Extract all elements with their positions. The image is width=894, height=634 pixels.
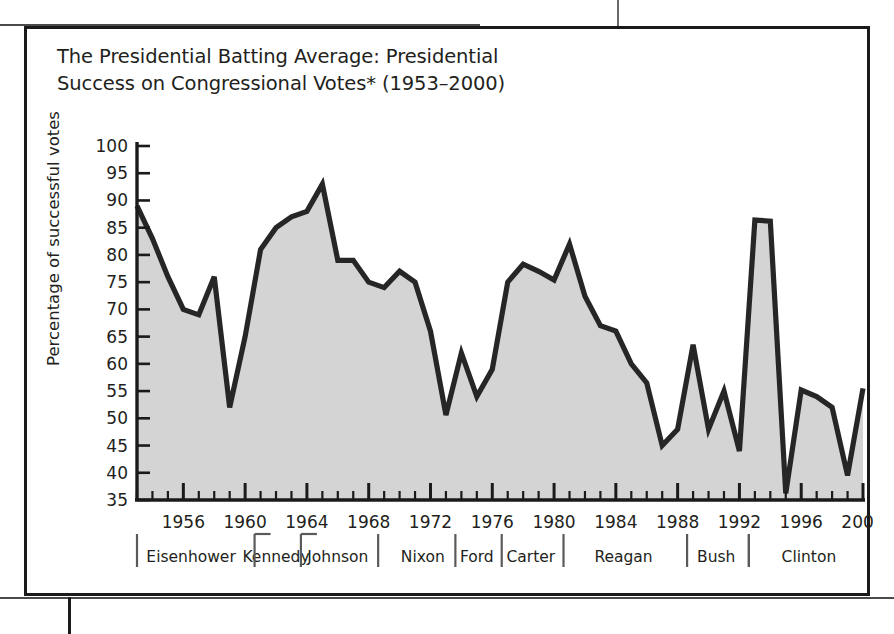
y-tick-label: 35 [106, 490, 128, 510]
y-tick-label: 55 [106, 381, 128, 401]
x-tick-label: 1996 [780, 512, 823, 532]
president-label: Clinton [782, 548, 837, 566]
x-tick-label: 1956 [162, 512, 205, 532]
figure-root: The Presidential Batting Average: Presid… [0, 0, 894, 634]
x-tick-label: 1980 [532, 512, 575, 532]
y-tick-label: 50 [106, 408, 128, 428]
x-tick-label: 2000 [841, 512, 873, 532]
plot-area: Percentage of successful votes 100959085… [27, 29, 873, 599]
x-tick-label: 1968 [347, 512, 390, 532]
y-tick-label: 75 [106, 272, 128, 292]
president-label: Bush [697, 548, 735, 566]
y-tick-label: 100 [96, 136, 128, 156]
president-label: Johnson [306, 548, 368, 566]
page-crop-line-bottom-left [68, 597, 71, 634]
y-tick-label: 95 [106, 163, 128, 183]
y-tick-label: 45 [106, 436, 128, 456]
president-label: Reagan [594, 548, 652, 566]
y-tick-label: 40 [106, 463, 128, 483]
president-label: Eisenhower [146, 548, 236, 566]
x-tick-label: 1960 [223, 512, 266, 532]
page-crop-line-vertical [617, 0, 619, 26]
president-label: Carter [507, 548, 556, 566]
y-tick-label: 90 [106, 190, 128, 210]
chart-frame: The Presidential Batting Average: Presid… [24, 26, 870, 596]
y-tick-label: 80 [106, 245, 128, 265]
president-label: Ford [460, 548, 494, 566]
y-tick-label: 70 [106, 299, 128, 319]
x-tick-label: 1988 [656, 512, 699, 532]
x-tick-label: 1984 [594, 512, 637, 532]
x-tick-label: 1972 [409, 512, 452, 532]
area-chart: 1009590858075706560555045403519561960196… [27, 29, 873, 599]
x-tick-label: 1976 [471, 512, 514, 532]
y-tick-label: 60 [106, 354, 128, 374]
y-tick-label: 65 [106, 327, 128, 347]
x-tick-label: 1964 [285, 512, 328, 532]
president-label: Kennedy [242, 548, 309, 566]
x-tick-label: 1992 [718, 512, 761, 532]
president-label: Nixon [401, 548, 445, 566]
y-tick-label: 85 [106, 218, 128, 238]
